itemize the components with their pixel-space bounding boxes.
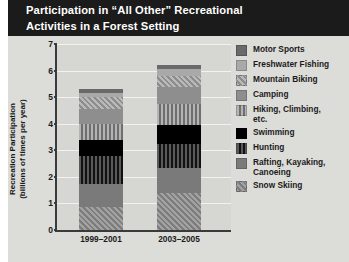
- y-tick-label: 6: [48, 66, 53, 76]
- bar-1999–2001[interactable]: 1999–2001: [79, 89, 123, 230]
- bar-segment-hunting[interactable]: [79, 156, 123, 184]
- gridline: [57, 44, 231, 45]
- y-tick-mark: [54, 96, 57, 98]
- legend-item[interactable]: Snow Skiing: [236, 180, 348, 192]
- legend-swatch-solid-mid-gray: [236, 90, 247, 101]
- y-tick-label: 7: [48, 39, 53, 49]
- legend-item[interactable]: Mountain Biking: [236, 74, 348, 86]
- legend-item[interactable]: Rafting, Kayaking, Canoeing: [236, 157, 348, 177]
- bar-segment-motor-sports[interactable]: [157, 65, 201, 69]
- legend-label: Hunting: [253, 142, 284, 152]
- bar-segment-swimming[interactable]: [79, 140, 123, 156]
- bar-segment-rafting-kayaking-canoeing[interactable]: [157, 168, 201, 193]
- y-tick-label: 5: [48, 92, 53, 102]
- y-axis-title-line-1: Recreation Participation: [8, 103, 17, 195]
- x-axis-label: 2003–2005: [134, 234, 224, 244]
- y-tick-label: 0: [48, 225, 53, 235]
- y-tick-mark: [54, 176, 57, 178]
- legend-item[interactable]: Camping: [236, 89, 348, 101]
- bar-segment-snow-skiing[interactable]: [79, 207, 123, 230]
- bar-2003–2005[interactable]: 2003–2005: [157, 65, 201, 230]
- chart-title-line-1: Participation in “All Other” Recreationa…: [26, 2, 349, 18]
- y-tick-label: 4: [48, 119, 53, 129]
- bar-segment-camping[interactable]: [79, 109, 123, 124]
- bar-segment-freshwater-fishing[interactable]: [79, 93, 123, 97]
- y-axis-title-line-2: (billions of times per year): [18, 99, 27, 199]
- legend-item[interactable]: Freshwater Fishing: [236, 59, 348, 71]
- legend-label: Mountain Biking: [253, 74, 318, 84]
- legend-swatch-solid-light-gray: [236, 60, 247, 71]
- y-tick-mark: [54, 43, 57, 45]
- bar-segment-hiking-climbing-etc[interactable]: [79, 124, 123, 140]
- legend-swatch-diagonal-hatch-dark: [236, 181, 247, 192]
- legend-item[interactable]: Hunting: [236, 142, 348, 154]
- legend-swatch-solid-gray: [236, 158, 247, 169]
- legend-item[interactable]: Hiking, Climbing, etc.: [236, 104, 348, 124]
- y-tick-label: 2: [48, 172, 53, 182]
- legend-label: Hiking, Climbing, etc.: [253, 104, 321, 124]
- bar-segment-hiking-climbing-etc[interactable]: [157, 104, 201, 125]
- y-axis-title: Recreation Participation (billions of ti…: [8, 99, 28, 199]
- bar-segment-snow-skiing[interactable]: [157, 193, 201, 230]
- bar-segment-hunting[interactable]: [157, 144, 201, 168]
- y-tick-label: 3: [48, 145, 53, 155]
- legend-swatch-solid-dark-gray: [236, 45, 247, 56]
- legend-label: Motor Sports: [253, 44, 305, 54]
- y-tick-mark: [54, 229, 57, 231]
- legend-swatch-diagonal-hatch: [236, 75, 247, 86]
- bar-segment-motor-sports[interactable]: [79, 89, 123, 93]
- bar-segment-rafting-kayaking-canoeing[interactable]: [79, 184, 123, 208]
- legend-label: Camping: [253, 89, 289, 99]
- bar-segment-mountain-biking[interactable]: [157, 76, 201, 87]
- legend-label: Snow Skiing: [253, 180, 302, 190]
- legend-label: Freshwater Fishing: [253, 59, 329, 69]
- bar-segment-camping[interactable]: [157, 87, 201, 104]
- plot-area-wrapper: 012345671999–20012003–2005: [55, 44, 231, 232]
- gridline: [57, 71, 231, 72]
- legend-swatch-vertical-stripe-dark: [236, 143, 247, 154]
- legend-item[interactable]: Motor Sports: [236, 44, 348, 56]
- figure-page: Participation in “All Other” Recreationa…: [0, 0, 349, 262]
- plot-area: 012345671999–20012003–2005: [55, 44, 231, 232]
- y-tick-label: 1: [48, 198, 53, 208]
- x-axis-label: 1999–2001: [56, 234, 146, 244]
- y-tick-mark: [54, 149, 57, 151]
- bar-segment-freshwater-fishing[interactable]: [157, 69, 201, 76]
- legend-label: Swimming: [253, 127, 295, 137]
- chart-title-line-2: Activities in a Forest Setting: [26, 18, 349, 34]
- chart-title-bar: Participation in “All Other” Recreationa…: [8, 0, 349, 36]
- chart-figure: Recreation Participation (billions of ti…: [8, 36, 349, 262]
- y-tick-mark: [54, 70, 57, 72]
- y-tick-mark: [54, 123, 57, 125]
- bar-segment-mountain-biking[interactable]: [79, 97, 123, 109]
- legend-item[interactable]: Swimming: [236, 127, 348, 139]
- legend-swatch-solid-black: [236, 128, 247, 139]
- chart-legend: Motor SportsFreshwater FishingMountain B…: [236, 44, 348, 195]
- legend-swatch-vertical-stripe-light: [236, 105, 247, 116]
- bar-segment-swimming[interactable]: [157, 125, 201, 144]
- legend-label: Rafting, Kayaking, Canoeing: [253, 157, 325, 177]
- y-tick-mark: [54, 202, 57, 204]
